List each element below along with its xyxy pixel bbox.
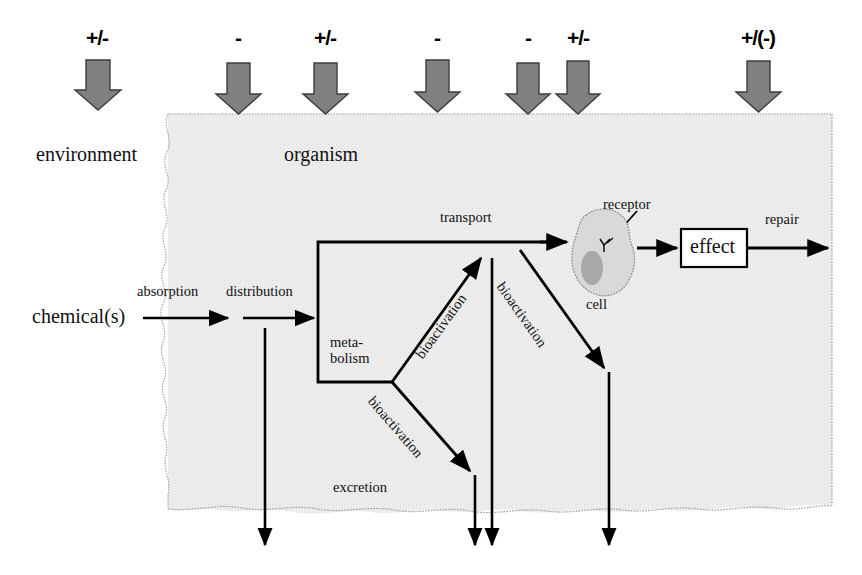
diagram-graphics (0, 0, 862, 575)
modifier-sign-6: +/- (567, 26, 589, 50)
top-arrow-2 (216, 63, 261, 114)
cell-graphic (572, 209, 635, 296)
transport-label: transport (440, 209, 492, 226)
metabolism-label-line2: bolism (330, 350, 369, 366)
top-arrow-1 (75, 60, 121, 110)
organism-region (161, 114, 832, 514)
modifier-sign-1: +/- (86, 26, 108, 50)
top-modifier-arrows (75, 60, 781, 114)
receptor-label: receptor (603, 196, 651, 213)
repair-label: repair (765, 211, 799, 228)
diagram-canvas: +/- - +/- - - +/- +/(-) environment orga… (0, 0, 862, 575)
organism-label: organism (284, 143, 358, 166)
environment-label: environment (36, 143, 137, 166)
modifier-sign-4: - (434, 26, 440, 50)
metabolism-label-line1: meta- (330, 334, 363, 350)
cell-label: cell (586, 296, 607, 313)
top-arrow-3 (303, 63, 348, 114)
top-arrow-5 (506, 63, 550, 114)
distribution-label: distribution (226, 283, 293, 300)
effect-label: effect (690, 235, 735, 258)
chemicals-label: chemical(s) (32, 305, 125, 328)
top-arrow-7 (736, 61, 781, 112)
modifier-sign-2: - (235, 26, 241, 50)
absorption-label: absorption (137, 283, 198, 300)
top-arrow-6 (556, 61, 600, 114)
modifier-sign-7: +/(-) (741, 26, 775, 50)
top-arrow-4 (415, 60, 460, 112)
excretion-label: excretion (333, 479, 387, 496)
modifier-sign-3: +/- (314, 26, 336, 50)
modifier-sign-5: - (525, 26, 531, 50)
cell-nucleus (581, 251, 603, 285)
